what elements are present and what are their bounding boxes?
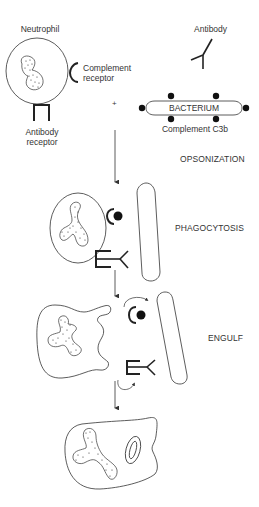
neutrophil-label: Neutrophil	[12, 24, 68, 34]
antibody-label: Antibody	[194, 24, 227, 34]
engulfing-neutrophil	[37, 305, 111, 378]
stage-opsonization-label: OPSONIZATION	[180, 154, 245, 164]
c3b-dot	[137, 311, 146, 320]
phagocytosis-neutrophil	[50, 193, 106, 263]
c3b-dot	[114, 212, 123, 221]
complement-receptor-label-line1: Complement	[83, 63, 131, 73]
antibody-receptor-label-line2: receptor	[15, 137, 69, 147]
bacterium-vertical	[137, 183, 160, 281]
antibody-receptor-label: Antibody receptor	[15, 127, 69, 147]
neutrophil-cell	[6, 38, 68, 104]
bacterium-label: BACTERIUM	[146, 103, 242, 113]
antibody-bound-icon	[127, 360, 155, 375]
plus-sign: +	[112, 99, 117, 109]
stage-phagocytosis-label: PHAGOCYTOSIS	[175, 223, 244, 233]
complement-receptor-icon	[70, 63, 78, 82]
curved-arrow-icon	[118, 380, 134, 390]
antibody-bound-icon	[96, 251, 128, 268]
phagosome	[123, 435, 144, 466]
bacterium-vertical	[157, 292, 187, 384]
complement-receptor-icon	[129, 307, 136, 323]
complement-receptor-label: Complement receptor	[83, 63, 131, 83]
complement-c3b-label: Complement C3b	[150, 124, 240, 134]
antibody-icon	[191, 39, 212, 69]
stage-engulf-label: ENGULF	[208, 333, 243, 343]
neutrophil-nucleus	[21, 56, 43, 90]
engulfed-bacterium	[128, 441, 138, 460]
antibody-receptor-label-line1: Antibody	[15, 127, 69, 137]
curved-arrow-icon	[124, 297, 147, 307]
phagocytosed-neutrophil	[65, 418, 157, 490]
antibody-receptor-icon	[34, 105, 49, 121]
complement-receptor-icon	[107, 209, 114, 224]
complement-receptor-label-line2: receptor	[83, 73, 131, 83]
